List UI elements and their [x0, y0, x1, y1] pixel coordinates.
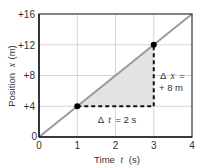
y-tick-labels: +16 +12 +8 +4 0	[18, 9, 37, 142]
delta-t-annotation: Δ t = 2 s	[98, 114, 137, 125]
position-time-chart: +16 +12 +8 +4 0 0 1 2 3 4 Time t (s) Pos…	[0, 0, 200, 168]
y-axis-label: Position x (m)	[6, 45, 17, 107]
x-tick-labels: 0 1 2 3 4	[36, 140, 195, 151]
y-tick-16: +16	[18, 9, 35, 20]
point-t1-x4	[74, 103, 80, 109]
x-tick-4: 4	[189, 140, 195, 151]
point-t3-x12	[151, 42, 157, 48]
y-tick-8: +8	[24, 70, 36, 81]
delta-x-annotation-line1: Δ x =	[160, 70, 185, 81]
x-tick-3: 3	[151, 140, 157, 151]
x-tick-2: 2	[113, 140, 119, 151]
y-tick-4: +4	[24, 101, 36, 112]
x-axis-label: Time t (s)	[94, 154, 140, 165]
y-tick-12: +12	[18, 40, 35, 51]
delta-x-annotation-line2: + 8 m	[159, 82, 183, 93]
x-tick-0: 0	[36, 140, 42, 151]
x-tick-1: 1	[74, 140, 80, 151]
